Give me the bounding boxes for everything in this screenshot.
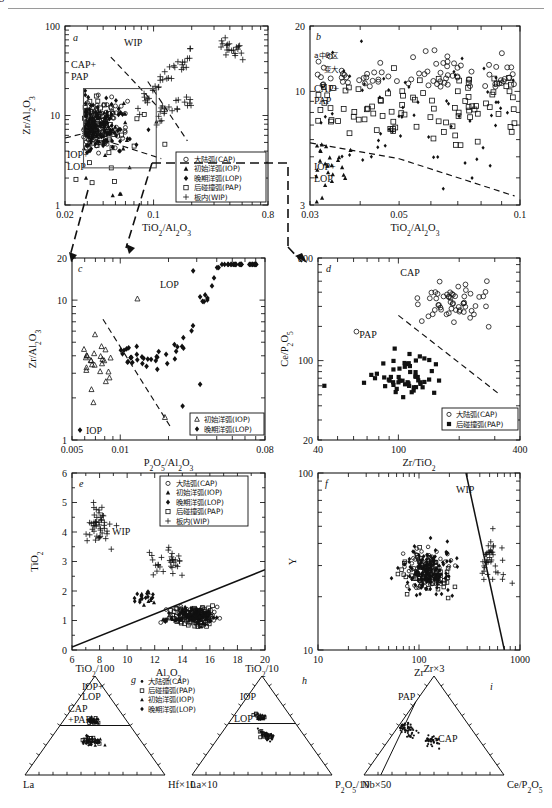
svg-text:20: 20 [295,21,305,32]
svg-text:10: 10 [50,110,60,121]
svg-text:0.1: 0.1 [147,209,160,220]
svg-text:f: f [325,478,329,489]
svg-text:100: 100 [298,468,313,479]
panel-b: 310200.030.050.1TiO2/Al2O3ba中B区变大CAP+PAP… [295,21,526,238]
svg-text:12: 12 [150,654,160,665]
svg-text:400: 400 [513,444,528,455]
svg-text:g: g [131,674,136,685]
svg-text:20: 20 [303,435,313,446]
svg-text:初始洋弧(IOP): 初始洋弧(IOP) [194,164,240,173]
svg-text:0.1: 0.1 [514,209,527,220]
svg-text:CAP: CAP [400,267,420,278]
svg-text:a中B区: a中B区 [314,51,339,60]
svg-text:TiO2/100: TiO2/100 [76,663,115,679]
panel-e-legend: 大陆弧(CAP)初始洋弧(IOP)晚期洋弧(LOP)后碰撞弧(PAP)板内(WI… [160,476,248,526]
svg-text:IOP: IOP [86,425,103,436]
svg-text:Zr/Al2O3: Zr/Al2O3 [21,96,37,135]
panel-i: Zr×3Nb×50Ce/P2O5iPAPCAP [362,663,543,795]
svg-text:大陆弧(CAP): 大陆弧(CAP) [456,410,498,419]
svg-text:0.05: 0.05 [390,209,408,220]
svg-text:WIP: WIP [124,37,143,48]
svg-text:0.08: 0.08 [256,444,274,455]
svg-text:100: 100 [391,444,406,455]
svg-text:4: 4 [62,527,67,538]
svg-text:后碰撞弧(PAP): 后碰撞弧(PAP) [176,507,223,516]
svg-text:i: i [490,681,493,692]
svg-text:La×10: La×10 [190,779,218,790]
svg-text:IOP: IOP [240,691,257,702]
svg-text:TiO2/Al2O3: TiO2/Al2O3 [142,222,191,238]
panel-h: TiO2/10La×10P2O5/10hIOPLOP [190,663,369,795]
svg-text:10: 10 [313,654,323,665]
panel-a: 1101000.020.10.8TiO2/Al2O3Zr/Al2O3aWIPCA… [21,21,274,238]
svg-text:18: 18 [232,654,242,665]
svg-text:0.8: 0.8 [262,209,275,220]
svg-text:CAP: CAP [68,703,88,714]
svg-text:TiO2/Al2O3: TiO2/Al2O3 [391,222,440,238]
svg-text:LOP: LOP [82,691,101,702]
svg-text:e: e [79,478,84,489]
svg-text:c: c [78,263,83,274]
svg-text:6: 6 [62,468,67,479]
panel-d-points [322,279,497,399]
svg-text:TiO2: TiO2 [29,551,45,572]
panel-c-legend: 初始洋弧(IOP)晚期洋弧(LOP) [190,413,264,435]
svg-text:Zr/Al2O3: Zr/Al2O3 [27,330,43,369]
figure-canvas: 1101000.020.10.8TiO2/Al2O3Zr/Al2O3aWIPCA… [0,0,552,808]
svg-text:g: g [0,0,5,2]
svg-text:10: 10 [295,86,305,97]
svg-text:WIP: WIP [112,526,131,537]
svg-text:Zr/TiO2: Zr/TiO2 [402,457,435,473]
panel-f: 10100101001000ZrYfWIP [287,468,530,678]
panel-d-legend: 大陆弧(CAP)后碰撞弧(PAP) [442,408,518,430]
top-rule [8,8,544,9]
svg-text:PAP: PAP [71,71,89,82]
panel-e: 012345668101214161820Al2O3TiO2eWIP大陆弧(CA… [29,468,270,683]
svg-text:10: 10 [122,654,132,665]
svg-text:40: 40 [313,444,323,455]
svg-text:0.005: 0.005 [61,444,84,455]
svg-text:Zr×3: Zr×3 [423,663,444,674]
panel-b-points [310,39,517,203]
panel-d: 2010080040100400Zr/TiO2Ce/P2O5dCAPPAP大陆弧… [279,253,528,473]
svg-text:WIP: WIP [456,484,475,495]
svg-text:后碰撞弧(PAP): 后碰撞弧(PAP) [148,686,195,695]
svg-text:10: 10 [303,645,313,656]
svg-text:后碰撞弧(PAP): 后碰撞弧(PAP) [194,183,241,192]
svg-text:1000: 1000 [510,654,530,665]
svg-text:20: 20 [57,253,67,264]
svg-text:PAP: PAP [359,329,377,340]
svg-text:0.02: 0.02 [56,209,74,220]
svg-text:板内(WIP): 板内(WIP) [194,193,228,202]
svg-text:初始洋弧(IOP): 初始洋弧(IOP) [176,488,222,497]
svg-text:100: 100 [45,21,60,32]
svg-text:晚期洋弧(LOP): 晚期洋弧(LOP) [148,705,196,714]
svg-text:b: b [316,31,321,42]
panel-g-legend: g大陆弧(CAP)后碰撞弧(PAP)初始洋弧(IOP)晚期洋弧(LOP) [131,674,196,714]
svg-text:TiO2/10: TiO2/10 [245,663,279,679]
svg-text:晚期洋弧(LOP): 晚期洋弧(LOP) [176,498,224,507]
svg-text:1: 1 [62,615,67,626]
svg-text:板内(WIP): 板内(WIP) [176,517,210,526]
svg-text:0.03: 0.03 [301,209,319,220]
svg-text:0: 0 [62,645,67,656]
svg-text:Y: Y [287,557,298,565]
svg-text:大陆弧(CAP): 大陆弧(CAP) [148,677,190,686]
svg-text:h: h [302,675,307,686]
svg-text:P2O5/Al2O3: P2O5/Al2O3 [144,457,194,473]
svg-text:LOP: LOP [160,279,179,290]
svg-text:IOP+: IOP+ [67,149,89,160]
svg-text:后碰撞弧(PAP): 后碰撞弧(PAP) [456,420,503,429]
svg-text:6: 6 [70,654,75,665]
svg-text:5: 5 [62,497,67,508]
panel-c: 110200.0050.010.08P2O5/Al2O3Zr/Al2O3cLOP… [27,253,274,473]
svg-text:14: 14 [177,654,187,665]
svg-text:La: La [23,779,34,790]
svg-text:晚期洋弧(LOP): 晚期洋弧(LOP) [204,425,252,434]
svg-text:CAP: CAP [438,733,458,744]
svg-text:16: 16 [205,654,215,665]
svg-text:初始洋弧(IOP): 初始洋弧(IOP) [204,415,250,424]
svg-text:a: a [73,32,78,43]
svg-text:初始洋弧(IOP): 初始洋弧(IOP) [148,695,194,704]
svg-text:CAP+: CAP+ [71,59,96,70]
